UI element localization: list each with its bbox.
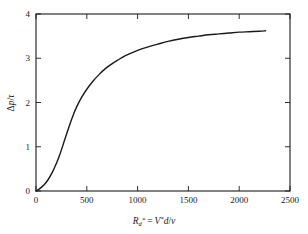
x-tick-label-2: 1000: [129, 195, 148, 205]
y-tick-label-1: 1: [26, 142, 31, 152]
x-tick-label-4: 2000: [230, 195, 249, 205]
x-tick-label-5: 2500: [281, 195, 300, 205]
y-tick-label-2: 2: [26, 98, 31, 108]
y-tick-label-3: 3: [26, 53, 31, 63]
x-axis-title: Rd* = V*d/ν: [132, 215, 176, 227]
chart-svg: 05001000150020002500 01234 Rd* = V*d/ν Δ…: [0, 0, 308, 234]
y-tick-label-0: 0: [26, 186, 31, 196]
y-tick-label-4: 4: [26, 9, 31, 19]
y-axis-title: Δp/τ: [6, 94, 16, 112]
x-tick-label-3: 1500: [179, 195, 198, 205]
chart-figure: 05001000150020002500 01234 Rd* = V*d/ν Δ…: [0, 0, 308, 234]
x-tick-label-0: 0: [34, 195, 39, 205]
x-tick-label-1: 500: [80, 195, 94, 205]
figure-background: [0, 0, 308, 234]
